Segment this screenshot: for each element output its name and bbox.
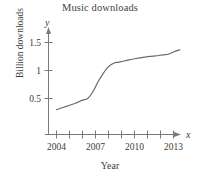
x-tick-label-2007: 2007: [86, 142, 105, 152]
chart-figure: Music downloads Billion downloads Year 1…: [0, 0, 200, 184]
y-axis: [46, 27, 51, 135]
x-axis-variable-label: x: [185, 129, 191, 140]
x-tick-label-2004: 2004: [47, 142, 66, 152]
data-series-line: [57, 50, 181, 110]
x-tick-label-2010: 2010: [125, 142, 144, 152]
y-tick-label-1: 1: [36, 66, 41, 76]
chart-svg: 1.5 1 0.5 2004 2007 2010 2013 y x: [0, 0, 200, 184]
y-axis-variable-label: y: [44, 17, 50, 28]
y-tick-label-1-5: 1.5: [29, 38, 41, 48]
y-tick-label-0-5: 0.5: [29, 94, 41, 104]
x-tick-label-2013: 2013: [164, 142, 183, 152]
